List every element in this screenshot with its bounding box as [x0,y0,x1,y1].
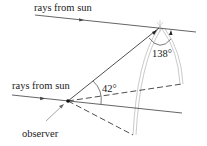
angle-42-arc [93,81,101,104]
rainbow-diagram: rays from sun rays from sun observer 42°… [0,0,207,146]
bottom-sun-ray [12,95,182,113]
top-ray-arrow-icon [79,18,84,21]
observer-point [66,99,70,103]
observer-label: observer [22,128,59,139]
angle-138-label: 138° [152,48,172,59]
dashed-line-down [68,101,133,135]
bottom-rays-label: rays from sun [12,80,70,91]
raindrop-icon [157,20,163,32]
angle-138-arrow-icon [169,30,173,35]
angle-42-label: 42° [102,83,117,94]
top-sun-ray [35,15,196,32]
dashed-line-right [68,84,182,101]
top-rays-label: rays from sun [34,2,92,13]
bottom-ray-arrow-icon [40,97,45,100]
